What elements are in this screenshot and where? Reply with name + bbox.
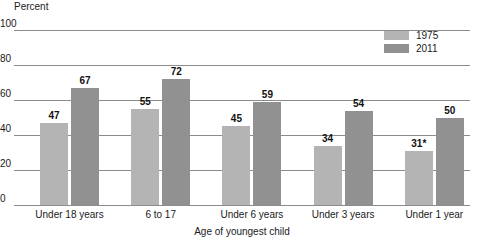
bar-group: 31*50 <box>405 30 464 205</box>
bar-1975-1 <box>131 109 159 205</box>
bar-1975-4 <box>405 151 433 205</box>
bar-group: 5572 <box>131 30 190 205</box>
category-label: Under 1 year <box>380 208 484 221</box>
bar-1975-2 <box>222 126 250 205</box>
legend-label-1975: 1975 <box>416 30 438 41</box>
bar-value-label: 34 <box>308 133 348 144</box>
bar-value-label: 54 <box>339 98 379 109</box>
legend-item-2011: 2011 <box>384 43 462 54</box>
legend-item-1975: 1975 <box>384 30 462 41</box>
legend-swatch-2011 <box>384 44 409 53</box>
bar-chart: Percent 020406080100 476755724559345431*… <box>0 0 484 246</box>
y-axis-title: Percent <box>14 1 48 13</box>
bar-2011-3 <box>345 111 373 206</box>
bar-2011-0 <box>71 88 99 205</box>
bar-value-label: 59 <box>247 89 287 100</box>
bar-1975-3 <box>314 146 342 206</box>
bar-value-label: 50 <box>430 105 470 116</box>
chart-legend: 1975 2011 <box>384 30 462 56</box>
bars-layer: 476755724559345431*50 <box>14 30 470 205</box>
bar-value-label: 55 <box>125 96 165 107</box>
bar-value-label: 45 <box>216 113 256 124</box>
bar-1975-0 <box>40 123 68 205</box>
y-tick-label: 100 <box>0 18 26 29</box>
bar-group: 3454 <box>314 30 373 205</box>
bar-value-label: 47 <box>34 110 74 121</box>
legend-label-2011: 2011 <box>416 43 438 54</box>
legend-swatch-1975 <box>384 31 409 40</box>
bar-group: 4559 <box>222 30 281 205</box>
x-axis-title: Age of youngest child <box>0 225 484 238</box>
bar-2011-4 <box>436 118 464 206</box>
axis-baseline <box>14 205 470 206</box>
bar-2011-1 <box>162 79 190 205</box>
bar-group: 4767 <box>40 30 99 205</box>
bar-value-label: 31* <box>399 138 439 149</box>
bar-value-label: 72 <box>156 66 196 77</box>
bar-value-label: 67 <box>65 75 105 86</box>
category-labels: Under 18 years6 to 17Under 6 yearsUnder … <box>14 208 470 224</box>
bar-2011-2 <box>253 102 281 205</box>
